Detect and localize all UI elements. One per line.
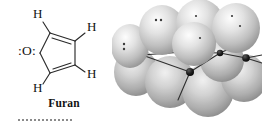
bond-o-c2 xyxy=(40,33,50,53)
atom-node-c xyxy=(217,50,223,56)
dot-left-a xyxy=(123,43,125,45)
dot-upper-left-a xyxy=(155,19,157,21)
atom-node-d xyxy=(242,54,250,62)
bond-c5-o xyxy=(40,53,50,73)
atom-node-e xyxy=(186,68,194,76)
bond-c2-h xyxy=(43,22,50,33)
hydrogen-label-top-right: H xyxy=(87,21,97,33)
bond-c2-c3 xyxy=(50,33,75,41)
dot-upper-left-b xyxy=(160,19,162,21)
dot-front-center xyxy=(199,37,201,39)
dot-upper-right-b xyxy=(239,25,241,27)
hydrogen-label-bottom-right: H xyxy=(87,68,97,80)
page-edge-artifact xyxy=(18,119,74,121)
orbital-model-svg xyxy=(112,0,262,123)
hydrogen-label-bottom-left: H xyxy=(33,82,43,94)
furan-lewis-structure-panel: H H H H :O: Furan xyxy=(0,0,128,123)
hydrogen-label-top-left: H xyxy=(33,8,43,20)
lobe-upper-front-center xyxy=(172,22,216,66)
figure-root: H H H H :O: Furan xyxy=(0,0,262,123)
dot-left-b xyxy=(123,48,125,50)
furan-orbital-model-panel xyxy=(112,0,262,123)
bond-c4-h xyxy=(75,65,85,72)
lobe-upper-right xyxy=(212,3,260,53)
oxygen-atom-label: :O: xyxy=(18,45,36,57)
double-bond-inner-bottom xyxy=(53,63,71,69)
dot-upper-center xyxy=(195,15,197,17)
bond-c3-h xyxy=(75,33,85,41)
bond-c5-h xyxy=(43,73,50,84)
dot-upper-right-a xyxy=(231,15,233,17)
furan-caption: Furan xyxy=(0,97,128,109)
